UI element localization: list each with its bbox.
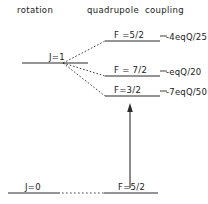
label-level-j1: J=1: [49, 52, 65, 62]
transition-arrow-head: [127, 103, 133, 112]
diagram-lines-layer: [0, 0, 208, 204]
header-rotation: rotation: [17, 5, 53, 15]
fan-line-to-f72: [63, 63, 105, 76]
label-level-f-5-2: F =5/2: [114, 30, 144, 40]
energy-label-f-7-2: -eqQ/20: [166, 67, 201, 77]
energy-label-f-3-2: -7eqQ/50: [166, 87, 207, 97]
energy-level-diagram: rotation quadrupole coupling J=1 J=0 F =…: [0, 0, 208, 204]
fan-line-to-f32: [63, 63, 105, 96]
label-level-j0: J=0: [25, 182, 41, 192]
label-level-f-3-2: F=3/2: [114, 85, 141, 95]
energy-label-f-5-2: -4eqQ/25: [166, 32, 207, 42]
label-ground-f-5-2: F=5/2: [118, 182, 145, 192]
header-quadrupole: quadrupole: [87, 5, 139, 15]
label-level-f-7-2: F = 7/2: [114, 65, 147, 75]
fan-line-to-f52: [63, 41, 105, 63]
header-coupling: coupling: [145, 5, 184, 15]
